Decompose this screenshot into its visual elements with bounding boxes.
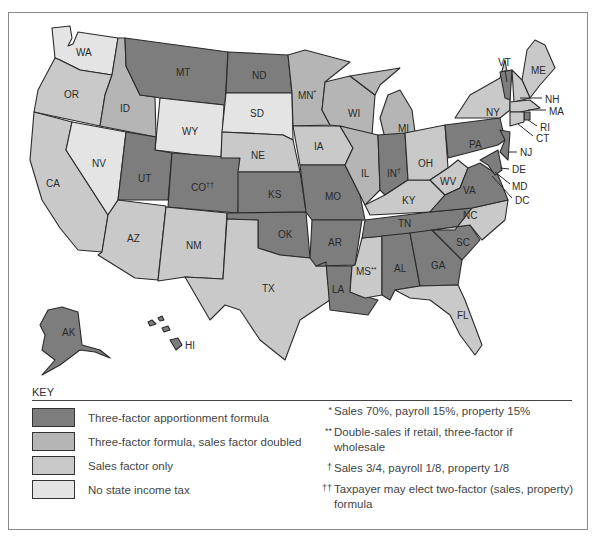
key-label: Three-factor formula, sales factor doubl… xyxy=(88,436,302,448)
label-oh: OH xyxy=(418,158,433,169)
label-ut: UT xyxy=(138,173,151,184)
label-ct: CT xyxy=(536,133,549,144)
key-label: Sales factor only xyxy=(88,460,173,472)
label-wv: WV xyxy=(440,176,456,187)
label-fl: FL xyxy=(457,310,469,321)
note-in: †Sales 3/4, payroll 1/8, property 1/8 xyxy=(322,461,584,476)
label-tn: TN xyxy=(398,218,411,229)
swatch-sales-only xyxy=(32,456,75,475)
label-ok: OK xyxy=(278,229,293,240)
label-al: AL xyxy=(394,263,407,274)
label-la: LA xyxy=(332,284,345,295)
label-sc: SC xyxy=(456,237,470,248)
map-key: KEY Three-factor apportionment formula T… xyxy=(32,386,572,401)
note-mn: *Sales 70%, payroll 15%, property 15% xyxy=(322,404,584,419)
us-map: WA OR CA ID NV MT WY UT AZ CO†† NM ND SD… xyxy=(0,0,598,400)
label-dc: DC xyxy=(515,195,529,206)
swatch-no-tax xyxy=(32,480,75,499)
label-mo: MO xyxy=(325,191,341,202)
key-item-three-factor: Three-factor apportionment formula xyxy=(32,408,269,427)
label-ia: IA xyxy=(314,141,324,152)
state-ak[interactable] xyxy=(40,307,110,375)
label-nj: NJ xyxy=(520,147,532,158)
label-tx: TX xyxy=(262,283,275,294)
label-wi: WI xyxy=(348,108,360,119)
label-ak: AK xyxy=(62,327,76,338)
state-fl[interactable] xyxy=(395,285,482,355)
state-ny[interactable] xyxy=(455,60,510,118)
key-label: Three-factor apportionment formula xyxy=(88,412,269,424)
label-id: ID xyxy=(120,103,130,114)
label-nh: NH xyxy=(545,94,559,105)
swatch-three-factor xyxy=(32,408,75,427)
swatch-double-sales xyxy=(32,432,75,451)
label-ar: AR xyxy=(328,237,342,248)
key-item-sales-only: Sales factor only xyxy=(32,456,173,475)
label-ks: KS xyxy=(268,189,282,200)
label-nm: NM xyxy=(186,240,202,251)
label-az: AZ xyxy=(127,233,140,244)
label-me: ME xyxy=(531,65,546,76)
label-nc: NC xyxy=(463,210,477,221)
label-wa: WA xyxy=(76,47,92,58)
note-ms: **Double-sales if retail, three-factor i… xyxy=(322,425,514,455)
state-ri[interactable] xyxy=(524,112,530,120)
label-or: OR xyxy=(64,89,79,100)
label-de: DE xyxy=(512,164,526,175)
key-label: No state income tax xyxy=(88,484,190,496)
label-mt: MT xyxy=(176,67,190,78)
label-mi: MI xyxy=(398,123,409,134)
label-ma: MA xyxy=(549,106,564,117)
label-nd: ND xyxy=(252,70,266,81)
label-il: IL xyxy=(361,168,370,179)
key-notes: *Sales 70%, payroll 15%, property 15% **… xyxy=(322,404,584,518)
label-ne: NE xyxy=(251,150,265,161)
label-ny: NY xyxy=(486,107,500,118)
state-hi[interactable] xyxy=(148,316,182,350)
key-item-no-tax: No state income tax xyxy=(32,480,190,499)
label-ca: CA xyxy=(46,178,60,189)
label-va: VA xyxy=(463,185,476,196)
label-vt: VT xyxy=(498,57,511,68)
note-co: ††Taxpayer may elect two-factor (sales, … xyxy=(322,482,574,512)
state-ct[interactable] xyxy=(510,112,524,126)
label-ga: GA xyxy=(431,260,446,271)
key-title: KEY xyxy=(32,386,572,401)
key-item-double-sales: Three-factor formula, sales factor doubl… xyxy=(32,432,302,451)
label-wy: WY xyxy=(182,126,198,137)
leader-ri xyxy=(528,120,537,126)
label-nv: NV xyxy=(92,158,106,169)
label-ri: RI xyxy=(540,122,550,133)
label-hi: HI xyxy=(185,340,195,351)
label-md: MD xyxy=(512,181,528,192)
label-ky: KY xyxy=(402,195,416,206)
leader-ct xyxy=(518,124,533,136)
label-pa: PA xyxy=(469,139,482,150)
label-sd: SD xyxy=(250,108,264,119)
